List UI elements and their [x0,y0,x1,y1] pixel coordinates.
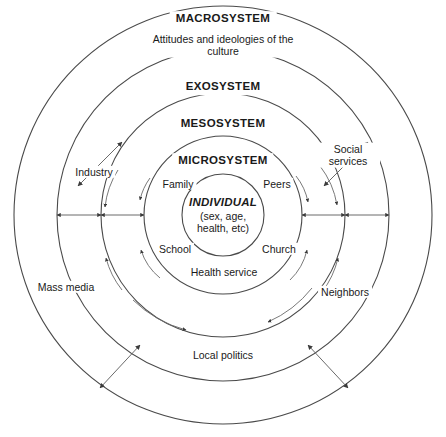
label-individual-line-1: (sex, age, [171,209,275,221]
label-local-politics: Local politics [190,349,256,361]
label-church: Church [259,243,299,255]
label-health-service: Health service [188,266,261,278]
label-family: Family [160,178,197,190]
arrow-diagonal-bottom-left [100,345,140,388]
arc-arrow-lower-left [106,258,122,290]
arrow-diagonal-top-left [78,142,122,186]
arc-arrow-upper-right [320,166,337,205]
arc-arrow-bottom-left [133,300,186,330]
label-microsystem: MICROSYSTEM [172,153,273,169]
label-exosystem: EXOSYSTEM [180,79,267,95]
label-macrosystem: MACROSYSTEM [170,11,277,27]
label-mesosystem: MESOSYSTEM [175,116,272,132]
label-individual-line-2: health, etc) [171,222,275,234]
label-peers: Peers [260,178,293,190]
ecological-systems-diagram: MACROSYSTEM Attitudes and ideologies of … [0,0,446,437]
label-school: School [156,243,194,255]
arrow-diagonal-bottom-right [308,345,348,388]
label-individual-title: INDIVIDUAL [171,196,275,210]
label-mass-media: Mass media [34,281,98,293]
label-industry: Industry [72,166,115,178]
label-social-services: Social services [316,143,380,168]
label-macrosystem-sublabel: Attitudes and ideologies of the culture [133,33,313,58]
label-neighbors: Neighbors [318,286,372,298]
label-individual-block: INDIVIDUAL (sex, age, health, etc) [171,196,275,234]
